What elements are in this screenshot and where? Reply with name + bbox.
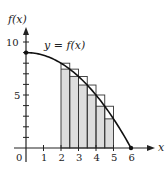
inscribed-rect: [105, 119, 114, 148]
x-tick-label-4: 4: [94, 152, 100, 163]
x-tick-label-1: 1: [41, 152, 47, 163]
x-axis-arrow-icon: [147, 145, 155, 151]
y-tick-label-10: 10: [6, 37, 19, 48]
x-tick-label-6: 6: [129, 152, 135, 163]
inscribed-rect: [96, 106, 105, 148]
x-tick-label-5: 5: [111, 152, 117, 163]
inscribed-rect: [87, 95, 96, 148]
inscribed-rect: [70, 76, 79, 148]
curve-label: y = f(x): [43, 39, 85, 52]
x-tick-label-2: 2: [59, 152, 65, 163]
y-axis-arrow-icon: [23, 27, 29, 35]
riemann-sum-chart: f(x) x y = f(x) 10 5 0 1 2 3 4 5 6: [0, 0, 166, 173]
origin-label: 0: [16, 152, 22, 163]
y-axis-label: f(x): [7, 13, 27, 26]
x-tick-label-3: 3: [76, 152, 82, 163]
inscribed-rect: [79, 85, 88, 148]
inscribed-rect: [61, 69, 70, 148]
y-tick-label-5: 5: [14, 90, 20, 101]
x-axis-label: x: [158, 141, 165, 154]
y-intercept-point: [24, 50, 28, 54]
x-intercept-point: [129, 146, 133, 150]
